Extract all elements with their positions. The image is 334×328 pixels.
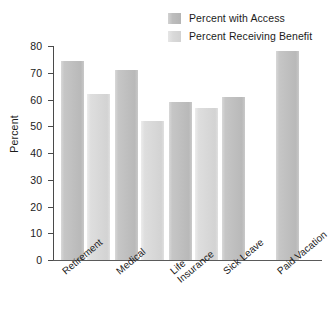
x-axis-category-label: Sick Leave: [221, 237, 266, 277]
x-axis-category-label: LifeInsurance: [168, 240, 216, 285]
x-axis-category-labels: RetirementMedicalLifeInsuranceSick Leave…: [0, 0, 334, 328]
x-axis-category-label: Retirement: [60, 237, 105, 277]
x-axis-category-label: Paid Vacation: [275, 229, 329, 277]
bar-chart: Percent with Access Percent Receiving Be…: [0, 0, 334, 328]
x-axis-category-label: Medical: [114, 246, 147, 277]
